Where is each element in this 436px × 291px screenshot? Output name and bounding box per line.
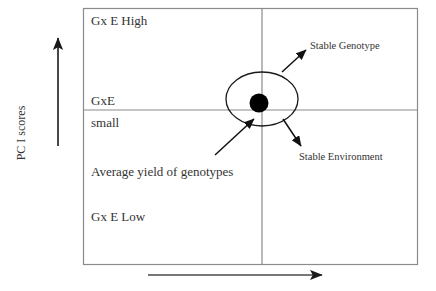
quadrant-label-small: small bbox=[91, 116, 119, 129]
quadrant-label-gxe-high: Gx E High bbox=[91, 14, 147, 27]
callout-arrow-average-yield bbox=[215, 119, 254, 155]
annotation-stable-genotype: Stable Genotype bbox=[310, 41, 380, 52]
annotation-stable-environment: Stable Environment bbox=[299, 152, 383, 163]
callout-arrow-stable-environment bbox=[283, 119, 301, 146]
origin-point bbox=[250, 94, 269, 113]
note-average-yield: Average yield of genotypes bbox=[91, 165, 233, 178]
gxe-biplot-diagram: PC I scores Gx E High Gx bbox=[0, 0, 436, 291]
callout-arrow-stable-genotype bbox=[282, 50, 306, 72]
quadrant-label-gxe-low: Gx E Low bbox=[91, 210, 145, 223]
quadrant-label-gxe: GxE bbox=[91, 94, 115, 107]
